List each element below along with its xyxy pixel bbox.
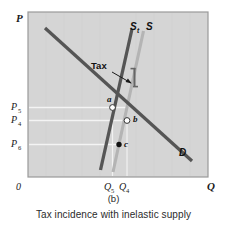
point-c-label: c [124,139,128,149]
quantity-tick-labels: Q 5 Q 4 [104,181,130,194]
figure-container: Tax S t S D a b c P Q 0 P 5 P 4 [0,0,227,227]
price-tick-p6: P [10,138,17,149]
point-b-label: b [133,114,138,124]
demand-curve-label: D [179,147,186,158]
price-tick-p5: P [10,101,17,112]
point-c-marker [116,142,121,147]
point-a-label: a [107,94,112,104]
y-axis-label: P [16,12,23,24]
point-a-marker [110,105,116,111]
panel-letter: (b) [0,193,227,204]
origin-label: 0 [16,181,21,192]
price-tick-p4-sub: 4 [18,120,22,127]
price-tick-p6-sub: 6 [18,144,22,151]
price-tick-p4: P [10,114,17,125]
supply-curve-label: S [146,21,153,32]
x-axis-label: Q [207,180,215,192]
price-tick-p5-sub: 5 [18,107,21,114]
price-tick-labels: P 5 P 4 P 6 [10,101,22,151]
supply-tax-curve-label: S [130,21,137,32]
tax-annotation-label: Tax [91,60,107,71]
figure-caption: Tax incidence with inelastic supply [0,209,227,220]
point-b-marker [124,118,130,124]
